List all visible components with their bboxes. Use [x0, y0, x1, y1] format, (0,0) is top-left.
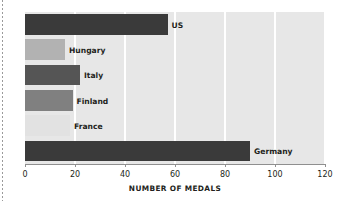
- bar-row[interactable]: Italy: [25, 63, 325, 88]
- bar-label-finland: Finland: [73, 96, 109, 105]
- x-tick-label-20: 20: [70, 170, 80, 179]
- x-tick-60: [175, 164, 176, 167]
- bar-chart-figure: TOP SIX WINNING NATIONS USHungaryItalyFi…: [0, 0, 350, 201]
- bar-label-france: France: [70, 121, 103, 130]
- bar-label-hungary: Hungary: [65, 45, 105, 54]
- bar-germany[interactable]: [25, 141, 250, 162]
- x-axis-title: NUMBER OF MEDALS: [25, 184, 325, 193]
- bar-italy[interactable]: [25, 65, 80, 86]
- bar-label-us: US: [168, 20, 184, 29]
- x-tick-label-80: 80: [220, 170, 230, 179]
- bar-label-germany: Germany: [250, 147, 293, 156]
- plot-area: USHungaryItalyFinlandFranceGermany: [25, 12, 325, 164]
- bar-row[interactable]: Hungary: [25, 37, 325, 62]
- bar-us[interactable]: [25, 14, 168, 35]
- x-tick-label-40: 40: [120, 170, 130, 179]
- bar-france[interactable]: [25, 115, 70, 136]
- left-edge-dotted-rule: [2, 0, 3, 201]
- bar-row[interactable]: France: [25, 113, 325, 138]
- bar-finland[interactable]: [25, 90, 73, 111]
- bar-row[interactable]: US: [25, 12, 325, 37]
- bar-row[interactable]: Germany: [25, 139, 325, 164]
- x-tick-label-60: 60: [170, 170, 180, 179]
- x-tick-label-120: 120: [317, 170, 332, 179]
- bar-row[interactable]: Finland: [25, 88, 325, 113]
- x-tick-80: [225, 164, 226, 167]
- bar-hungary[interactable]: [25, 39, 65, 60]
- bar-label-italy: Italy: [80, 71, 103, 80]
- x-tick-label-100: 100: [267, 170, 282, 179]
- x-tick-0: [25, 164, 26, 167]
- x-tick-20: [75, 164, 76, 167]
- x-tick-label-0: 0: [22, 170, 27, 179]
- x-tick-120: [325, 164, 326, 167]
- x-tick-100: [275, 164, 276, 167]
- x-tick-40: [125, 164, 126, 167]
